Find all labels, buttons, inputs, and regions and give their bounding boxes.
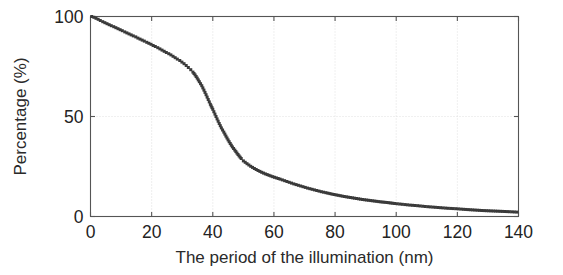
- x-tick-label: 100: [382, 222, 411, 242]
- data-point-marker: [421, 205, 424, 208]
- plot-area: 020406080100120140050100The period of th…: [11, 7, 533, 268]
- data-point-marker: [411, 204, 414, 207]
- data-series-cumulative-percentage: [90, 15, 518, 214]
- data-point-marker: [454, 207, 457, 210]
- x-tick-label: 140: [504, 222, 533, 242]
- percentage-vs-period-scatter-chart: 020406080100120140050100The period of th…: [0, 0, 563, 275]
- x-tick-label: 20: [142, 222, 162, 242]
- data-point-marker: [401, 203, 404, 206]
- x-axis-title: The period of the illumination (nm): [176, 248, 434, 267]
- data-point-marker: [515, 211, 518, 214]
- y-tick-label: 100: [54, 7, 83, 27]
- data-point-marker: [431, 206, 434, 209]
- data-point-marker: [426, 205, 429, 208]
- x-tick-label: 120: [443, 222, 472, 242]
- figure-container: 020406080100120140050100The period of th…: [0, 0, 563, 275]
- x-tick-label: 80: [325, 222, 345, 242]
- x-tick-label: 60: [264, 222, 284, 242]
- data-point-marker: [508, 210, 511, 213]
- x-tick-label: 0: [86, 222, 96, 242]
- x-tick-label: 40: [203, 222, 223, 242]
- data-point-marker: [442, 206, 445, 209]
- y-tick-label: 0: [74, 207, 84, 227]
- data-point-marker: [416, 204, 419, 207]
- y-tick-label: 50: [64, 107, 84, 127]
- y-axis-title: Percentage (%): [11, 57, 30, 175]
